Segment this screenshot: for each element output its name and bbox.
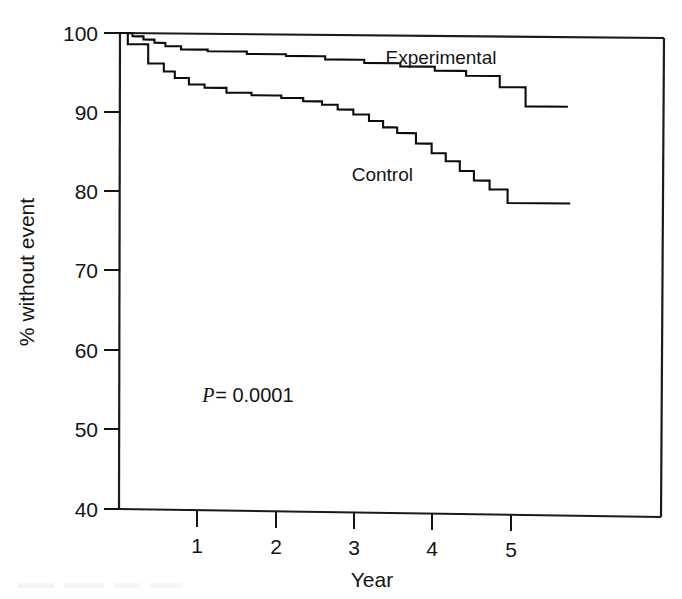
x-tick-label-4: 4 [426,537,438,560]
x-tick-label-2: 2 [270,535,282,558]
series-line-experimental [120,33,568,107]
y-tick-label-50: 50 [75,418,98,441]
y-axis-title: % without event [15,198,38,346]
plot-frame [119,32,664,517]
data-series-group [120,33,570,204]
x-tick-label-3: 3 [348,536,360,559]
caption-fragment [18,583,183,588]
y-tick-label-70: 70 [75,259,98,282]
y-tick-label-80: 80 [75,180,98,203]
y-tick-label-40: 40 [75,498,98,521]
frame-top-border [120,33,664,38]
y-tick-label-60: 60 [75,339,98,362]
experimental-series-label: Experimental [386,47,497,68]
frame-bottom-border [119,509,661,517]
figure-container: 100 90 80 70 60 50 40 % without event 1 … [0,0,682,599]
x-tick-label-1: 1 [191,534,203,557]
kaplan-meier-survival-chart: 100 90 80 70 60 50 40 % without event 1 … [0,0,682,599]
y-axis-tick-labels: 100 90 80 70 60 50 40 [63,22,98,521]
y-axis-ticks [104,33,120,509]
x-axis-title: Year [351,568,393,591]
control-series-label: Control [352,164,413,185]
x-tick-label-5: 5 [505,538,517,561]
y-tick-label-90: 90 [75,101,98,124]
p-value-text: = 0.0001 [215,384,293,406]
x-axis-tick-labels: 1 2 3 4 5 [191,534,517,561]
frame-right-border [661,38,664,517]
p-value-annotation: P = 0.0001 [201,384,293,406]
p-value-symbol: P [201,384,214,406]
y-tick-label-100: 100 [63,22,98,45]
